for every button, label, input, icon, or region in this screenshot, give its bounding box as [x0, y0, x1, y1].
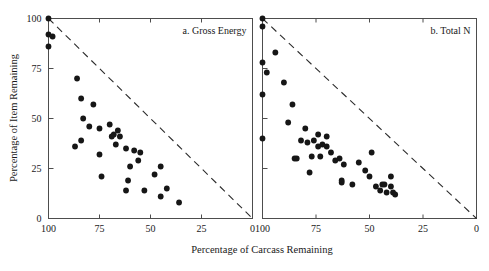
data-point: [264, 70, 270, 76]
data-point: [302, 126, 308, 132]
data-point: [115, 128, 121, 134]
data-point: [339, 180, 345, 186]
data-point: [356, 160, 362, 166]
x-tick-label: 0: [474, 223, 479, 234]
data-point: [78, 138, 84, 144]
data-point: [260, 92, 266, 98]
data-point: [305, 140, 311, 146]
data-point: [109, 134, 115, 140]
scatter-figure: 10075502500255075100a. Gross Energy10075…: [0, 0, 489, 271]
data-point: [131, 148, 137, 154]
x-tick-label: 75: [95, 223, 105, 234]
y-tick-label: 100: [27, 13, 42, 24]
data-point: [311, 138, 317, 144]
data-point: [152, 172, 158, 178]
data-point: [123, 146, 129, 152]
data-point: [317, 154, 323, 160]
data-point: [272, 50, 278, 56]
data-point: [373, 184, 379, 190]
data-point: [135, 158, 141, 164]
data-point: [260, 24, 266, 30]
data-point: [50, 34, 56, 40]
data-point: [285, 120, 291, 126]
panel-title: b. Total N: [431, 25, 471, 36]
y-tick-label: 0: [37, 213, 42, 224]
data-point: [369, 150, 375, 156]
x-tick-label: 50: [365, 223, 375, 234]
x-tick-label: 25: [197, 223, 207, 234]
data-point: [74, 76, 80, 82]
y-tick-label: 75: [32, 63, 42, 74]
data-point: [260, 60, 266, 66]
data-point: [137, 150, 143, 156]
x-tick-label: 25: [418, 223, 428, 234]
data-point: [294, 156, 300, 162]
data-point: [324, 134, 330, 140]
data-point: [388, 184, 394, 190]
y-tick-label: 25: [32, 163, 42, 174]
data-point: [127, 164, 133, 170]
data-point: [298, 138, 304, 144]
data-point: [377, 188, 383, 194]
data-point: [86, 124, 92, 130]
data-point: [125, 178, 131, 184]
y-tick-label: 50: [32, 113, 42, 124]
data-point: [382, 182, 388, 188]
data-point: [97, 126, 103, 132]
data-point: [315, 144, 321, 150]
data-point: [367, 174, 373, 180]
x-tick-label: 100: [255, 223, 270, 234]
data-point: [260, 136, 266, 142]
data-point: [141, 188, 147, 194]
data-point: [341, 162, 347, 168]
x-tick-label: 50: [146, 223, 156, 234]
data-point: [46, 16, 52, 22]
y-axis-title: Percentage of Item Remaining: [8, 53, 19, 182]
data-point: [99, 174, 105, 180]
data-point: [158, 194, 164, 200]
reference-line-dashed: [263, 19, 477, 219]
data-point: [117, 134, 123, 140]
data-point: [349, 182, 355, 188]
data-point: [362, 168, 368, 174]
x-axis-title: Percentage of Carcass Remaining: [191, 244, 333, 255]
data-point: [90, 102, 96, 108]
data-point: [123, 188, 129, 194]
data-point: [113, 142, 119, 148]
data-point: [176, 200, 182, 206]
data-point: [107, 122, 113, 128]
data-point: [72, 144, 78, 150]
panel-title: a. Gross Energy: [183, 25, 247, 36]
data-point: [309, 154, 315, 160]
figure-container: 10075502500255075100a. Gross Energy10075…: [0, 0, 489, 271]
data-point: [328, 150, 334, 156]
data-point: [260, 16, 266, 22]
data-point: [46, 44, 52, 50]
reference-line-dashed: [49, 19, 253, 219]
series-total-n: [260, 16, 398, 198]
data-point: [164, 186, 170, 192]
data-point: [324, 144, 330, 150]
data-point: [315, 132, 321, 138]
data-point: [384, 190, 390, 196]
data-point: [158, 164, 164, 170]
x-tick-label: 100: [41, 223, 56, 234]
data-point: [337, 156, 343, 162]
data-point: [97, 152, 103, 158]
panel-a: 10075502500255075100a. Gross Energy: [27, 13, 256, 234]
data-point: [290, 102, 296, 108]
x-tick-label: 75: [311, 223, 321, 234]
data-point: [281, 80, 287, 86]
data-point: [78, 96, 84, 102]
data-point: [80, 116, 86, 122]
data-point: [392, 192, 398, 198]
series-gross-energy: [46, 16, 182, 206]
data-point: [388, 174, 394, 180]
data-point: [307, 170, 313, 176]
panel-b: 1007550250b. Total N: [255, 16, 479, 234]
